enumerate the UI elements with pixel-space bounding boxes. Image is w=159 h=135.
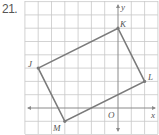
vertex-l [143, 80, 146, 83]
y-axis-down-arrow-icon [116, 128, 120, 132]
y-axis-up-arrow-icon [116, 4, 120, 8]
vertex-label-k: K [119, 19, 127, 29]
vertex-j [37, 67, 40, 70]
y-axis-label: y [120, 2, 125, 12]
origin-label: O [108, 110, 115, 120]
vertex-label-m: M [52, 123, 61, 133]
x-axis-label: x [150, 110, 155, 120]
vertex-label-l: L [147, 72, 153, 82]
rectangle-jklm: J K L M [28, 19, 153, 133]
vertex-label-j: J [28, 59, 33, 69]
x-axis-left-arrow-icon [27, 106, 31, 110]
coordinate-plane: y x O J K L M [0, 0, 159, 135]
vertex-m [63, 120, 66, 123]
